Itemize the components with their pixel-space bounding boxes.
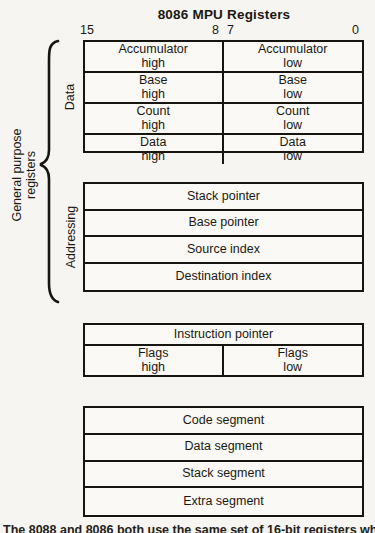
register-row-stack-segment: Stack segment [85, 462, 362, 489]
base-low-cell: Base low [224, 73, 363, 102]
data-group-label: Data [63, 84, 77, 110]
instruction-pointer-flags-block: Instruction pointer Flags high Flags low [83, 323, 364, 377]
addressing-registers-block: Stack pointer Base pointer Source index … [83, 182, 364, 292]
data-high-cell: Data high [85, 135, 224, 164]
extra-segment-cell: Extra segment [85, 488, 362, 515]
base-high-cell: Base high [85, 73, 224, 102]
register-row-base-pointer: Base pointer [85, 211, 362, 238]
general-purpose-registers-label: General purpose registers [10, 100, 38, 250]
addressing-group-label: Addressing [64, 206, 78, 269]
register-row-base: Base high Base low [85, 73, 362, 104]
source-index-cell: Source index [85, 237, 362, 262]
figure-caption: The 8088 and 8086 both use the same set … [3, 524, 375, 533]
base-pointer-cell: Base pointer [85, 211, 362, 236]
count-low-cell: Count low [224, 104, 363, 133]
figure-8086-registers: 8086 MPU Registers 15 8 7 0 General purp… [0, 0, 375, 533]
register-row-extra-segment: Extra segment [85, 488, 362, 515]
count-high-cell: Count high [85, 104, 224, 133]
bit-label-8: 8 [212, 24, 219, 37]
register-row-accumulator: Accumulator high Accumulator low [85, 42, 362, 73]
register-row-data-segment: Data segment [85, 435, 362, 462]
destination-index-cell: Destination index [85, 264, 362, 291]
register-row-source-index: Source index [85, 237, 362, 264]
data-low-cell: Data low [224, 135, 363, 164]
data-segment-cell: Data segment [85, 435, 362, 460]
bit-label-0: 0 [352, 24, 359, 37]
segment-registers-block: Code segment Data segment Stack segment … [83, 406, 364, 517]
data-registers-block: Accumulator high Accumulator low Base hi… [83, 40, 364, 153]
accumulator-low-cell: Accumulator low [224, 42, 363, 71]
bit-label-7: 7 [227, 24, 234, 37]
register-row-flags: Flags high Flags low [85, 346, 362, 375]
register-row-destination-index: Destination index [85, 264, 362, 291]
register-row-instruction-pointer: Instruction pointer [85, 325, 362, 346]
register-row-code-segment: Code segment [85, 408, 362, 435]
stack-segment-cell: Stack segment [85, 462, 362, 487]
accumulator-high-cell: Accumulator high [85, 42, 224, 71]
register-row-count: Count high Count low [85, 104, 362, 135]
flags-high-cell: Flags high [85, 346, 224, 375]
stack-pointer-cell: Stack pointer [85, 184, 362, 209]
code-segment-cell: Code segment [85, 408, 362, 433]
register-row-stack-pointer: Stack pointer [85, 184, 362, 211]
instruction-pointer-cell: Instruction pointer [85, 325, 362, 344]
general-purpose-brace [38, 37, 62, 307]
register-row-data: Data high Data low [85, 135, 362, 164]
figure-title: 8086 MPU Registers [83, 7, 365, 22]
flags-low-cell: Flags low [224, 346, 363, 375]
bit-label-15: 15 [80, 24, 94, 37]
